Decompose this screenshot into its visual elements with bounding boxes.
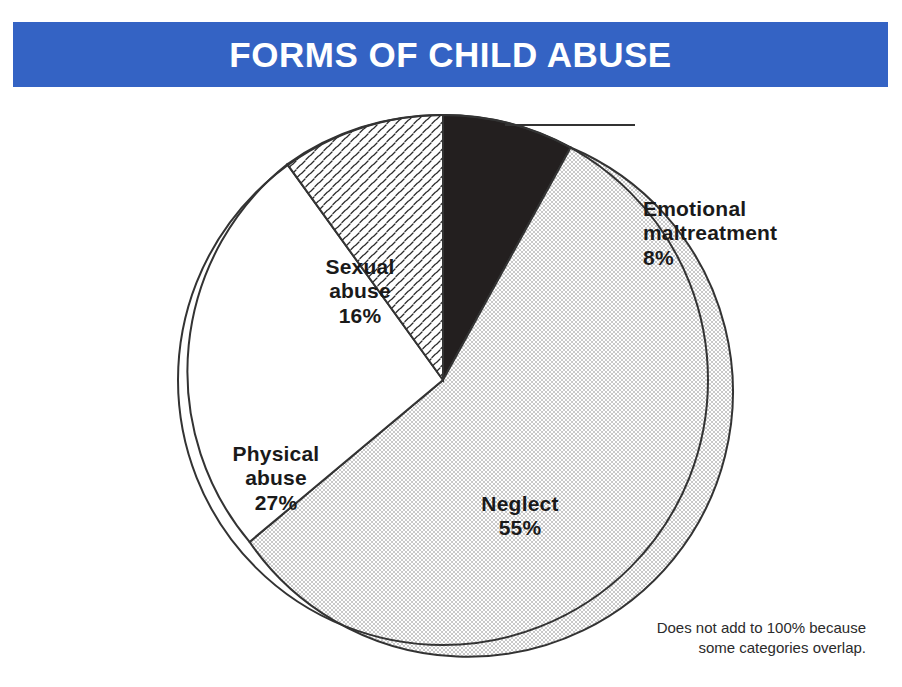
slice-label-sexual-abuse-line1: Sexual [285, 255, 435, 279]
slice-label-physical-abuse: Physical abuse 27% [196, 442, 356, 515]
slice-label-emotional-maltreatment-line1: Emotional [643, 197, 777, 221]
slice-value-physical-abuse: 27% [196, 491, 356, 515]
chart-footnote-line1: Does not add to 100% because [536, 618, 866, 638]
chart-footnote: Does not add to 100% because some catego… [536, 618, 866, 658]
slice-label-neglect: Neglect 55% [445, 492, 595, 541]
slice-label-physical-abuse-line1: Physical [196, 442, 356, 466]
slice-label-physical-abuse-line2: abuse [196, 466, 356, 490]
slice-label-neglect-line1: Neglect [445, 492, 595, 516]
page-title: FORMS OF CHILD ABUSE [229, 37, 671, 72]
slice-value-sexual-abuse: 16% [285, 304, 435, 328]
chart-footnote-line2: some categories overlap. [536, 638, 866, 658]
slice-label-emotional-maltreatment-line2: maltreatment [643, 221, 777, 245]
slice-label-emotional-maltreatment: Emotional maltreatment 8% [643, 197, 777, 270]
chart-figure: FORMS OF CHILD ABUSE [0, 0, 902, 687]
slice-value-neglect: 55% [445, 516, 595, 540]
title-banner: FORMS OF CHILD ABUSE [13, 22, 888, 87]
pie-chart-svg [13, 87, 888, 672]
slice-label-sexual-abuse-line2: abuse [285, 279, 435, 303]
pie-chart-area: Sexual abuse 16% Physical abuse 27% Negl… [13, 87, 888, 672]
slice-value-emotional-maltreatment: 8% [643, 246, 777, 270]
slice-label-sexual-abuse: Sexual abuse 16% [285, 255, 435, 328]
